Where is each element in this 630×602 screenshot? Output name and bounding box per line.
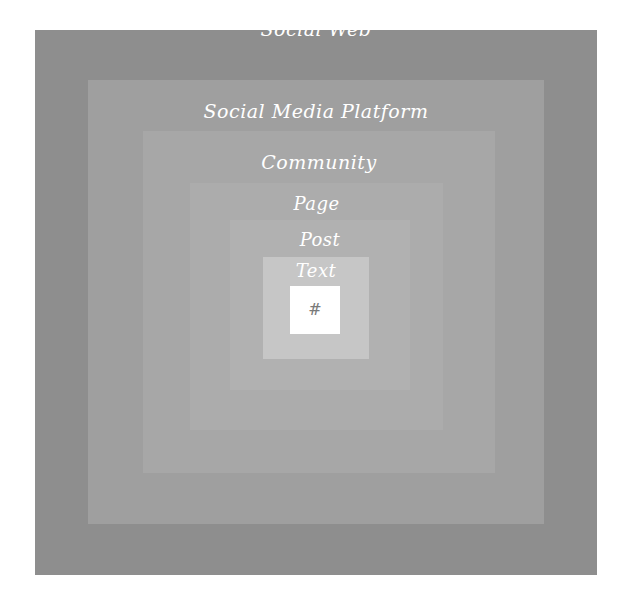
layer-hashtag: # — [290, 286, 340, 334]
label-text: Text — [263, 262, 369, 280]
label-social-media-platform: Social Media Platform — [88, 102, 544, 121]
hashtag-icon: # — [290, 300, 340, 319]
label-page: Page — [190, 195, 443, 213]
label-post: Post — [230, 231, 410, 249]
label-social-web: Social Web — [35, 20, 597, 39]
label-community: Community — [143, 153, 495, 172]
